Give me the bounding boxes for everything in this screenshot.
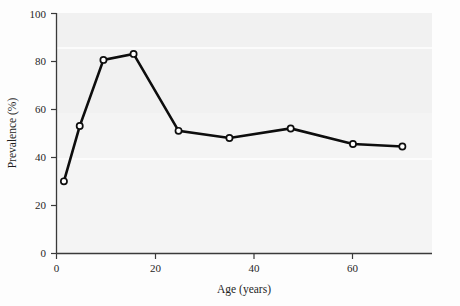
line-chart: 0 20 40 60 80 100 0 20 40 60 Age (years)… bbox=[0, 0, 460, 306]
y-tick-label-20: 20 bbox=[35, 199, 47, 211]
data-point bbox=[226, 135, 232, 141]
data-point bbox=[100, 57, 106, 63]
x-axis-ticks bbox=[57, 254, 353, 260]
data-point bbox=[399, 143, 405, 149]
data-markers-prevalence bbox=[61, 51, 406, 185]
data-point bbox=[130, 51, 136, 57]
y-tick-label-60: 60 bbox=[35, 103, 47, 115]
x-tick-label-40: 40 bbox=[249, 262, 261, 274]
x-tick-label-0: 0 bbox=[54, 262, 60, 274]
data-point bbox=[288, 125, 294, 131]
y-tick-label-100: 100 bbox=[30, 8, 47, 20]
data-point bbox=[77, 123, 83, 129]
y-axis-title: Prevalence (%) bbox=[6, 98, 19, 169]
y-tick-label-40: 40 bbox=[35, 151, 47, 163]
data-point bbox=[61, 178, 67, 184]
x-tick-label-20: 20 bbox=[150, 262, 162, 274]
x-tick-label-60: 60 bbox=[347, 262, 359, 274]
data-point bbox=[175, 128, 181, 134]
y-axis-tick-labels: 0 20 40 60 80 100 bbox=[30, 8, 47, 260]
y-axis-ticks bbox=[51, 14, 57, 254]
data-line-prevalence bbox=[64, 54, 402, 181]
x-axis-tick-labels: 0 20 40 60 bbox=[54, 262, 359, 274]
y-tick-label-80: 80 bbox=[35, 55, 47, 67]
data-point bbox=[350, 141, 356, 147]
figure-container: 0 20 40 60 80 100 0 20 40 60 Age (years)… bbox=[0, 0, 460, 306]
y-tick-label-0: 0 bbox=[41, 247, 47, 259]
x-axis-title: Age (years) bbox=[217, 283, 271, 296]
